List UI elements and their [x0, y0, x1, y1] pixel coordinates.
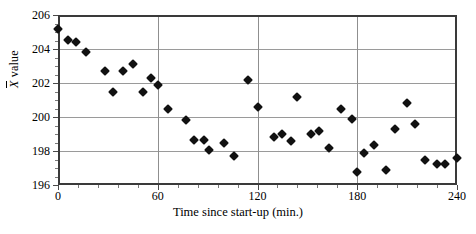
x-minor-tickmark — [277, 185, 278, 188]
x-tickmark — [357, 185, 358, 190]
x-tick-label: 0 — [38, 190, 78, 202]
x-minor-tickmark — [78, 185, 79, 188]
x-axis-title: Time since start-up (min.) — [0, 205, 476, 220]
x-minor-tickmark — [297, 185, 298, 188]
y-axis-title-text: value — [7, 50, 21, 77]
x-minor-tickmark — [377, 185, 378, 188]
frame-top — [58, 15, 457, 17]
x-minor-tickmark — [337, 185, 338, 188]
y-tick-label: 198 — [20, 145, 50, 157]
x-tickmark — [58, 185, 59, 190]
x-minor-tickmark — [417, 185, 418, 188]
x-minor-tickmark — [317, 185, 318, 188]
overbar — [6, 81, 7, 88]
chart-figure: X value Time since start-up (min.) 19619… — [0, 0, 476, 234]
y-tick-label: 206 — [20, 9, 50, 21]
y-tick-label: 202 — [20, 77, 50, 89]
x-minor-tickmark — [138, 185, 139, 188]
x-minor-tickmark — [118, 185, 119, 188]
x-minor-tickmark — [437, 185, 438, 188]
x-tick-label: 60 — [138, 190, 178, 202]
x-minor-tickmark — [98, 185, 99, 188]
plot-area — [58, 15, 457, 185]
frame-left — [58, 15, 60, 185]
y-axis-title: X value — [7, 29, 25, 109]
x-tick-label: 240 — [437, 190, 476, 202]
plot-frame — [58, 15, 457, 185]
x-minor-tickmark — [238, 185, 239, 188]
x-tickmark — [457, 185, 458, 190]
y-tick-label: 204 — [20, 43, 50, 55]
frame-bottom — [58, 183, 457, 185]
x-tickmark — [258, 185, 259, 190]
y-tick-label: 200 — [20, 111, 50, 123]
x-tick-label: 180 — [337, 190, 377, 202]
x-minor-tickmark — [198, 185, 199, 188]
x-tickmark — [158, 185, 159, 190]
x-minor-tickmark — [397, 185, 398, 188]
x-minor-tickmark — [218, 185, 219, 188]
x-minor-tickmark — [178, 185, 179, 188]
x-tick-label: 120 — [238, 190, 278, 202]
